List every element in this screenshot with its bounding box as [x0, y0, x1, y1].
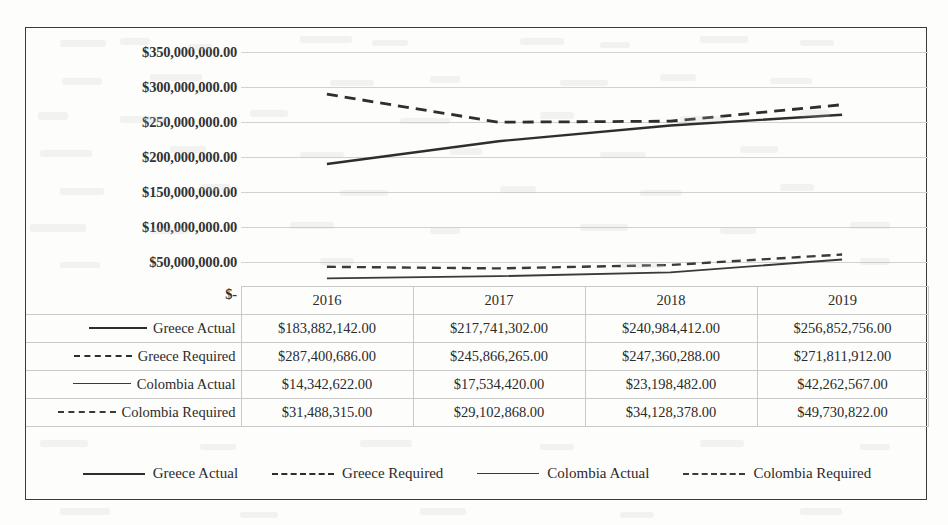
- series-swatch-dashed-thick-icon: [74, 355, 132, 357]
- legend-item-greece-required[interactable]: Greece Required: [272, 466, 443, 481]
- table-column-header-2016: 2016: [241, 287, 413, 315]
- table-corner-cell: [26, 287, 241, 315]
- table-row-label-greece-actual: Greece Actual: [26, 315, 241, 343]
- table-cell: $287,400,686.00: [241, 343, 413, 371]
- series-name: Greece Required: [138, 348, 236, 364]
- table-cell: $240,984,412.00: [585, 315, 757, 343]
- series-swatch-dashed-thin-icon: [58, 411, 116, 413]
- y-axis-tick-label: $150,000,000.00: [47, 184, 237, 201]
- table-row: Colombia Actual $14,342,622.00 $17,534,4…: [26, 371, 928, 399]
- y-axis-tick-label: $50,000,000.00: [47, 254, 237, 271]
- y-axis-tick-label: $350,000,000.00: [47, 44, 237, 61]
- table-cell: $217,741,302.00: [413, 315, 585, 343]
- table-cell: $245,866,265.00: [413, 343, 585, 371]
- table-cell: $14,342,622.00: [241, 371, 413, 399]
- table-cell: $29,102,868.00: [413, 399, 585, 427]
- table-cell: $183,882,142.00: [241, 315, 413, 343]
- plot-area: $350,000,000.00 $300,000,000.00 $250,000…: [26, 28, 928, 288]
- series-line-greece-required: [327, 94, 842, 122]
- table-cell: $17,534,420.00: [413, 371, 585, 399]
- table-cell: $49,730,822.00: [757, 399, 928, 427]
- table-header-row: 2016 2017 2018 2019: [26, 287, 928, 315]
- chart-container: $350,000,000.00 $300,000,000.00 $250,000…: [25, 27, 927, 500]
- legend-swatch-solid-thin-icon: [477, 473, 539, 474]
- series-line-colombia-actual: [327, 260, 842, 279]
- table-column-header-2018: 2018: [585, 287, 757, 315]
- legend-label: Greece Actual: [153, 466, 238, 481]
- series-line-colombia-required: [327, 255, 842, 269]
- series-swatch-solid-thin-icon: [73, 383, 131, 384]
- table-cell: $23,198,482.00: [585, 371, 757, 399]
- series-lines: [241, 28, 928, 288]
- chart-legend: Greece Actual Greece Required Colombia A…: [26, 446, 928, 501]
- legend-label: Colombia Actual: [547, 466, 649, 481]
- table-cell: $42,262,567.00: [757, 371, 928, 399]
- table-column-header-2019: 2019: [757, 287, 928, 315]
- legend-swatch-dashed-thick-icon: [272, 473, 334, 475]
- table-row-label-colombia-actual: Colombia Actual: [26, 371, 241, 399]
- legend-label: Colombia Required: [753, 466, 871, 481]
- legend-item-colombia-required[interactable]: Colombia Required: [683, 466, 871, 481]
- table-row-label-colombia-required: Colombia Required: [26, 399, 241, 427]
- legend-item-greece-actual[interactable]: Greece Actual: [83, 466, 238, 481]
- series-swatch-solid-thick-icon: [89, 327, 147, 329]
- legend-label: Greece Required: [342, 466, 443, 481]
- table-row: Colombia Required $31,488,315.00 $29,102…: [26, 399, 928, 427]
- table-cell: $31,488,315.00: [241, 399, 413, 427]
- legend-swatch-dashed-thin-icon: [683, 473, 745, 475]
- table-cell: $34,128,378.00: [585, 399, 757, 427]
- series-name: Colombia Actual: [137, 376, 236, 392]
- y-axis-tick-label: $100,000,000.00: [47, 219, 237, 236]
- table-row-label-greece-required: Greece Required: [26, 343, 241, 371]
- table-column-header-2017: 2017: [413, 287, 585, 315]
- table-row: Greece Required $287,400,686.00 $245,866…: [26, 343, 928, 371]
- y-axis-tick-label: $200,000,000.00: [47, 149, 237, 166]
- series-name: Greece Actual: [153, 320, 236, 336]
- table-cell: $271,811,912.00: [757, 343, 928, 371]
- y-axis-tick-label: $250,000,000.00: [47, 114, 237, 131]
- legend-item-colombia-actual[interactable]: Colombia Actual: [477, 466, 649, 481]
- legend-swatch-solid-thick-icon: [83, 473, 145, 475]
- table-row: Greece Actual $183,882,142.00 $217,741,3…: [26, 315, 928, 343]
- table-cell: $256,852,756.00: [757, 315, 928, 343]
- table-cell: $247,360,288.00: [585, 343, 757, 371]
- series-name: Colombia Required: [122, 404, 236, 420]
- y-axis-tick-label: $300,000,000.00: [47, 79, 237, 96]
- data-table: 2016 2017 2018 2019 Greece Actual $183,8…: [26, 286, 929, 427]
